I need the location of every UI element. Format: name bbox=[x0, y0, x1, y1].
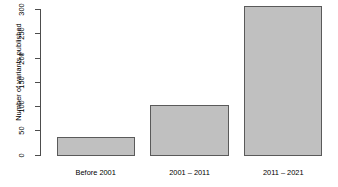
y-tick-label: 100 bbox=[17, 95, 26, 119]
y-tick-label: 50 bbox=[17, 119, 26, 143]
y-tick-label: 250 bbox=[17, 22, 26, 46]
y-tick-150 bbox=[35, 82, 40, 83]
y-tick-250 bbox=[35, 33, 40, 34]
bar bbox=[57, 137, 135, 156]
bar bbox=[150, 105, 228, 156]
y-tick-label: 150 bbox=[17, 70, 26, 94]
y-tick-50 bbox=[35, 130, 40, 131]
y-tick-label: 0 bbox=[17, 143, 26, 167]
x-axis-label: 2011 – 2021 bbox=[223, 168, 338, 178]
y-tick-100 bbox=[35, 106, 40, 107]
bar bbox=[244, 6, 322, 156]
y-tick-label: 300 bbox=[17, 0, 26, 22]
plot-area bbox=[41, 5, 338, 156]
y-tick-label: 200 bbox=[17, 46, 26, 70]
y-tick-0 bbox=[35, 155, 40, 156]
y-tick-300 bbox=[35, 9, 40, 10]
y-tick-200 bbox=[35, 58, 40, 59]
bar-chart: Number of variants published 05010015020… bbox=[0, 0, 338, 187]
